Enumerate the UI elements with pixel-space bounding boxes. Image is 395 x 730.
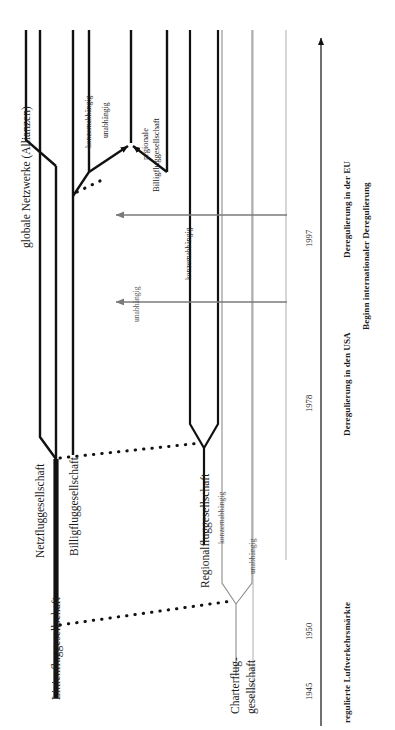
- dotted-linien-to-charter: [60, 601, 232, 625]
- era-deregulierung-eu: Deregulierung in der EU: [343, 161, 353, 258]
- gray-arrows: [116, 215, 287, 302]
- label-konzernabhaengig-1: konzernabhängig: [85, 96, 93, 148]
- era-deregulierung-usa: Deregulierung in den USA: [343, 332, 353, 436]
- label-charter-line2: gesellschaft: [245, 660, 257, 714]
- label-regionale-billig-line2: Billigfluggesellschaft: [152, 118, 161, 192]
- label-charter-line1: Charterflug-: [229, 657, 241, 714]
- label-globale-netzwerke: globale Netzwerke (Allianzen): [20, 106, 32, 248]
- label-billigfluggesellschaft: Billigfluggesellschaft: [68, 457, 80, 556]
- label-unabhaengig-2: unabhängig: [133, 287, 141, 322]
- dotted-linien-to-regional: [60, 443, 201, 458]
- track-billigfluggesellschaft: [73, 30, 89, 455]
- year-1945: 1945: [305, 683, 314, 700]
- era-beginn-internationaler-deregulierung: Beginn internationaler Deregulierung: [362, 182, 372, 330]
- year-1997: 1997: [305, 230, 314, 247]
- track-charterfluggesellschaft: [222, 30, 252, 676]
- track-regionalfluggesellschaft: [190, 30, 218, 545]
- label-konzernabhaengig-2: konzernabhängig: [185, 228, 193, 280]
- label-unabhaengig-1: unabhängig: [102, 103, 110, 138]
- track-netzfluggesellschaft: [40, 30, 56, 459]
- year-1950: 1950: [305, 623, 314, 640]
- era-guide-lines: [253, 30, 286, 700]
- label-regionale-billig-line1: regionale: [141, 128, 150, 160]
- label-regionalfluggesellschaft: Regionalfluggesellschaft: [199, 474, 211, 588]
- label-unabhaengig-3: unabhängig: [249, 539, 257, 574]
- label-netzfluggesellschaft: Netzfluggesellschaft: [34, 463, 46, 558]
- era-regulierte-luftverkehrsmaerkte: regulierte Luftverkehrsmärkte: [343, 602, 353, 723]
- year-1978: 1978: [305, 395, 314, 412]
- label-linienfluggesellschaft: Linienfluggesellschaft: [50, 597, 62, 700]
- diagram-canvas: globale Netzwerke (Allianzen) Netzflugge…: [0, 0, 395, 730]
- label-konzernabhaengig-3: konzernabhängig: [218, 492, 226, 544]
